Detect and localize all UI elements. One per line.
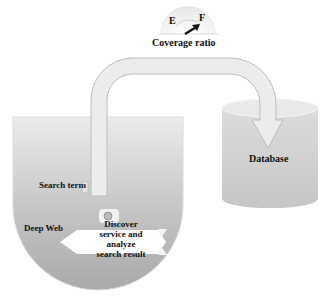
probe-line-2: service and <box>86 229 156 239</box>
search-term-label: Search term <box>39 180 86 190</box>
probe-line-4: search result <box>86 249 156 259</box>
probe-text: Discover service and analyze search resu… <box>86 219 156 259</box>
probe-line-3: analyze <box>86 239 156 249</box>
gauge-empty-label: E <box>169 16 176 26</box>
coverage-gauge <box>158 6 218 34</box>
coverage-ratio-caption: Coverage ratio <box>152 38 216 48</box>
probe-line-1: Discover <box>86 219 156 229</box>
gauge-full-label: F <box>199 13 205 23</box>
deep-web-label: Deep Web <box>24 223 63 233</box>
database-label: Database <box>249 154 288 164</box>
